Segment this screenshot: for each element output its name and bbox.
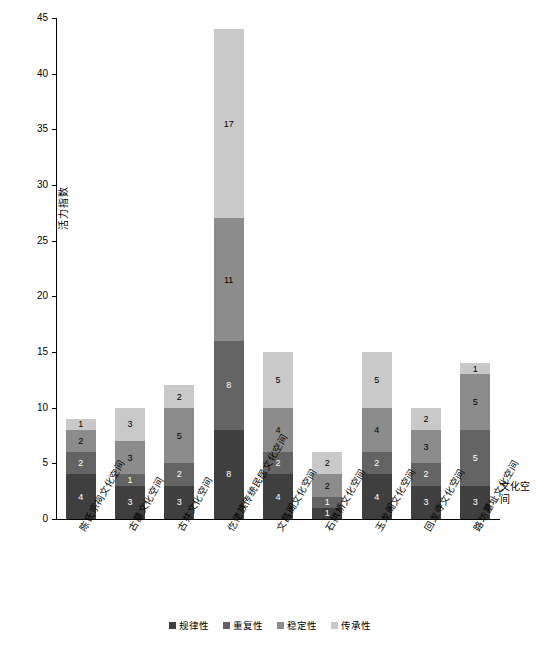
bar-segment: 3 [115,408,145,441]
bar-segment-value: 4 [362,425,392,434]
y-tick-mark [52,296,56,297]
chart-legend: 规律性重复性稳定性传承性 [0,618,540,632]
bar-stack: 5424 [362,352,392,519]
bar-segment-value: 5 [460,453,490,462]
bar-stack: 171188 [214,29,244,519]
y-tick-mark [52,185,56,186]
y-tick-mark [52,352,56,353]
y-tick-label: 30 [22,180,48,190]
y-tick-label: 5 [22,458,48,468]
bar-segment-value: 2 [312,481,342,490]
bar-segment-value: 2 [164,470,194,479]
y-tick-label: 35 [22,124,48,134]
bar-segment: 2 [312,474,342,496]
bar-segment: 4 [362,408,392,453]
y-tick-mark [52,18,56,19]
y-tick-label: 20 [22,291,48,301]
bar-segment-value: 1 [460,364,490,373]
legend-swatch [169,622,176,629]
y-tick-label: 0 [22,514,48,524]
bar-segment-value: 11 [214,275,244,284]
bar-segment: 5 [460,430,490,486]
legend-swatch [223,622,230,629]
bar-segment: 2 [411,408,441,430]
bar-segment-value: 5 [164,431,194,440]
plot-area: 051015202530354045 122433132523171188542… [56,18,500,520]
y-tick-label: 25 [22,236,48,246]
legend-item: 规律性 [169,618,209,632]
bar-segment: 3 [411,430,441,463]
x-axis-title: 文化空间 [500,480,536,506]
y-tick-mark [52,519,56,520]
y-tick-mark [52,241,56,242]
legend-label: 重复性 [233,618,263,632]
legend-swatch [277,622,284,629]
y-tick-label: 45 [22,13,48,23]
bar-segment-value: 5 [263,375,293,384]
bar-segment-value: 5 [460,398,490,407]
bar-segment: 17 [214,29,244,218]
bar-segment-value: 5 [362,375,392,384]
y-tick-mark [52,129,56,130]
bar-segment: 1 [66,419,96,430]
bar-segment-value: 2 [66,437,96,446]
legend-item: 传承性 [331,618,371,632]
bar-segment: 2 [66,430,96,452]
bar-segment-value: 3 [115,420,145,429]
y-tick-label: 10 [22,403,48,413]
y-tick-label: 40 [22,69,48,79]
legend-label: 规律性 [179,618,209,632]
bar-segment-value: 2 [411,414,441,423]
legend-label: 传承性 [341,618,371,632]
legend-item: 稳定性 [277,618,317,632]
bar-segment-value: 2 [312,459,342,468]
legend-swatch [331,622,338,629]
bar-segment-value: 1 [66,420,96,429]
y-tick-mark [52,463,56,464]
bar-segment: 2 [164,463,194,485]
bar-segment-value: 17 [214,119,244,128]
bar-segment: 8 [214,341,244,430]
bar-segment: 5 [164,408,194,464]
bar-segment: 2 [66,452,96,474]
stacked-bar-chart: 活力指数 051015202530354045 1224331325231711… [0,0,540,649]
bar-segment: 1 [460,363,490,374]
bar-segment-value: 8 [214,470,244,479]
y-tick-mark [52,74,56,75]
bar-segment-value: 2 [164,392,194,401]
bar-segment: 2 [164,385,194,407]
bar-segment-value: 3 [411,442,441,451]
bar-segment: 11 [214,218,244,340]
bar-segment: 5 [460,374,490,430]
bar-segment-value: 8 [214,381,244,390]
legend-item: 重复性 [223,618,263,632]
legend-label: 稳定性 [287,618,317,632]
y-tick-label: 15 [22,347,48,357]
bar-segment-value: 2 [66,459,96,468]
y-tick-mark [52,408,56,409]
bar-segment: 5 [362,352,392,408]
bar-segment-value: 2 [362,459,392,468]
y-axis-line [56,18,57,520]
bar-segment: 5 [263,352,293,408]
